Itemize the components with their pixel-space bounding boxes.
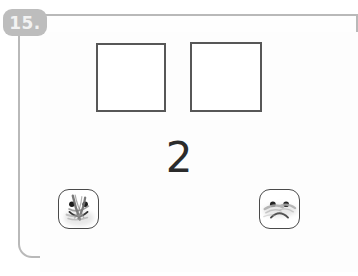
- happy-face-icon: [59, 190, 98, 228]
- sad-face-icon: [260, 190, 299, 228]
- prompt-numeral: 2: [150, 137, 208, 179]
- happy-face-button[interactable]: [58, 189, 99, 229]
- sad-face-button[interactable]: [259, 189, 300, 229]
- item-number-badge: 15.: [3, 9, 47, 36]
- answer-box-2[interactable]: [190, 42, 262, 112]
- answer-box-1[interactable]: [96, 43, 166, 112]
